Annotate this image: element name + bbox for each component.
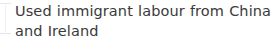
divider-bottom-fragment bbox=[0, 33, 11, 34]
snippet-text: Used immigrant labour from China and Ire… bbox=[15, 1, 277, 41]
divider-left-fragment bbox=[5, 3, 6, 34]
text-snippet-panel: Used immigrant labour from China and Ire… bbox=[0, 0, 280, 41]
